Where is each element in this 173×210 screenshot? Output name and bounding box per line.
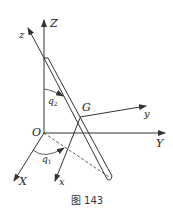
X-axis	[14, 133, 44, 181]
G-label: G	[82, 101, 91, 114]
q2-label: q2	[48, 96, 58, 107]
figure-caption: 图 143	[71, 195, 103, 206]
rod	[44, 58, 112, 180]
projection-dashed-line	[44, 133, 109, 177]
z-axis	[28, 28, 44, 58]
diagram-canvas: Z z Y X x y G O q2 q1 图 143	[0, 0, 173, 210]
q1-label: q1	[42, 154, 52, 165]
z-axis-label: z	[18, 29, 25, 40]
Y-axis-label: Y	[156, 137, 165, 150]
x-axis	[55, 118, 80, 181]
y-axis-label: y	[143, 108, 150, 119]
O-label: O	[32, 126, 41, 139]
X-axis-label: X	[18, 175, 28, 188]
x-axis-label: x	[59, 176, 65, 187]
Z-axis-label: Z	[49, 17, 58, 30]
q1-angle-arc	[33, 148, 64, 155]
